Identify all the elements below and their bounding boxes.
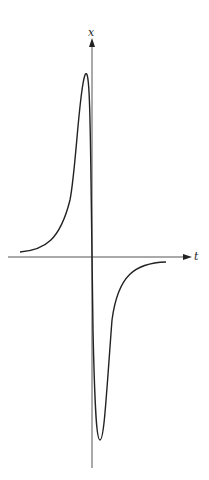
t-axis-arrow-icon xyxy=(183,254,192,260)
y-axis-label: x xyxy=(88,26,94,39)
y-axis-arrow-icon xyxy=(89,38,95,47)
figure: x t xyxy=(0,0,209,480)
x-axis-label: t xyxy=(194,250,198,263)
plot-canvas xyxy=(0,0,209,480)
